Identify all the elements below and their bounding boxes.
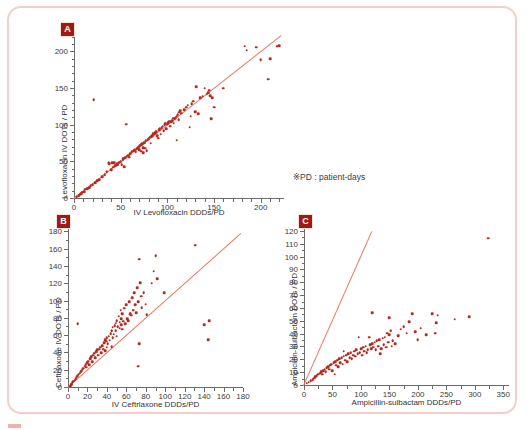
x-tick-minor	[83, 199, 84, 202]
x-tick-minor	[78, 388, 79, 391]
scatter-point	[208, 319, 211, 322]
x-tick-minor	[111, 199, 112, 202]
y-tick-minor	[66, 326, 69, 327]
y-tick-major	[64, 249, 68, 250]
scatter-point	[115, 335, 118, 338]
scatter-point	[107, 343, 110, 346]
x-tick-minor	[130, 199, 131, 202]
scatter-point	[133, 292, 136, 295]
scatter-point	[130, 314, 133, 317]
scatter-point	[213, 106, 216, 109]
scatter-point	[177, 119, 180, 122]
scatter-point	[163, 292, 166, 295]
scatter-point	[379, 353, 382, 356]
y-tick-major	[64, 283, 68, 284]
scatter-point	[138, 258, 141, 261]
scatter-point	[337, 365, 340, 368]
panel-a-y-axis-title: Levofloxacin IV DOTs / PD	[60, 105, 69, 199]
caption-swatch	[8, 424, 21, 428]
scatter-point	[128, 156, 131, 159]
y-tick-minor	[72, 66, 75, 67]
x-tick-minor	[375, 386, 376, 389]
x-tick-minor	[156, 388, 157, 391]
scatter-point	[111, 337, 114, 340]
scatter-point	[411, 313, 414, 316]
y-tick-major	[300, 269, 304, 270]
y-tick-minor	[302, 276, 305, 277]
scatter-point	[100, 351, 103, 354]
scatter-point	[364, 345, 367, 348]
scatter-point	[165, 127, 168, 130]
scatter-point	[152, 270, 155, 273]
x-tick-label: 160	[217, 393, 230, 401]
y-tick-minor	[72, 176, 75, 177]
x-tick-label: 350	[497, 391, 510, 399]
x-axis-line	[74, 198, 284, 199]
scatter-point	[145, 313, 148, 316]
y-tick-minor	[72, 81, 75, 82]
scatter-point	[255, 46, 258, 49]
x-tick-minor	[117, 388, 118, 391]
scatter-point	[390, 345, 393, 348]
scatter-point	[468, 315, 471, 318]
y-tick-minor	[66, 309, 69, 310]
y-axis-line	[74, 34, 75, 199]
y-tick-major	[64, 318, 68, 319]
y-tick-minor	[72, 117, 75, 118]
scatter-point	[197, 113, 200, 116]
panel-c-plot-area: 0102030405060708090100110120050100150200…	[304, 228, 509, 386]
y-axis-line	[68, 228, 69, 388]
scatter-point	[123, 165, 126, 168]
y-tick-major	[300, 231, 304, 232]
scatter-point	[104, 350, 107, 353]
y-tick-minor	[302, 327, 305, 328]
scatter-point	[128, 300, 131, 303]
scatter-point	[210, 118, 213, 121]
y-tick-minor	[72, 169, 75, 170]
y-tick-minor	[72, 183, 75, 184]
y-tick-major	[300, 295, 304, 296]
y-tick-major	[70, 88, 74, 89]
scatter-point	[139, 281, 142, 284]
scatter-point	[134, 151, 137, 154]
y-tick-minor	[302, 366, 305, 367]
panel-c-x-axis-title: Ampicillin-sulbactam DDDs/PD	[352, 398, 462, 407]
x-tick-minor	[233, 388, 234, 391]
panel-b-plot-area: 0204060801001201401601800204060801001201…	[68, 228, 243, 388]
scatter-point	[431, 313, 434, 316]
scatter-point	[222, 87, 225, 90]
scatter-point	[203, 324, 206, 327]
x-tick-minor	[233, 199, 234, 202]
scatter-point	[108, 335, 111, 338]
scatter-point	[125, 123, 128, 126]
y-tick-minor	[72, 147, 75, 148]
scatter-point	[154, 254, 157, 257]
y-tick-major	[70, 161, 74, 162]
x-tick-minor	[404, 386, 405, 389]
scatter-point	[173, 122, 176, 125]
scatter-point	[144, 303, 147, 306]
y-tick-label: 140	[49, 263, 62, 271]
x-tick-label: 20	[83, 393, 92, 401]
scatter-point	[388, 317, 391, 320]
scatter-point	[135, 311, 138, 314]
x-tick-label: 0	[66, 393, 70, 401]
scatter-point	[341, 363, 344, 366]
scatter-point	[119, 309, 122, 312]
y-tick-major	[64, 231, 68, 232]
y-tick-minor	[302, 263, 305, 264]
scatter-point	[346, 360, 349, 363]
scatter-point	[106, 346, 109, 349]
scatter-point	[378, 338, 381, 341]
scatter-point	[387, 341, 390, 344]
scatter-point	[169, 125, 172, 128]
y-tick-minor	[72, 132, 75, 133]
y-tick-label: 120	[49, 280, 62, 288]
scatter-point	[371, 311, 374, 314]
panel-c-tag: C	[298, 214, 313, 229]
scatter-point	[149, 142, 152, 145]
scatter-point	[354, 355, 357, 358]
y-tick-major	[300, 346, 304, 347]
panel-a-plot-area: 050100150200050100150200	[74, 34, 284, 199]
x-tick-minor	[214, 388, 215, 391]
